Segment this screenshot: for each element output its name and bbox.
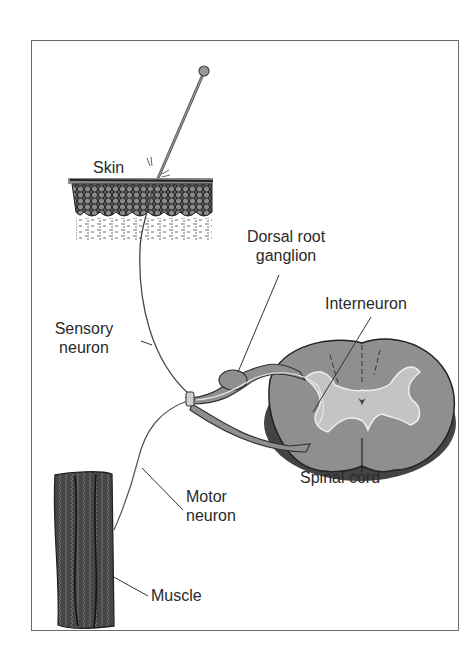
spinal-cord-illustration <box>264 339 456 481</box>
label-muscle: Muscle <box>151 586 202 605</box>
label-sensory-neuron-line1: Sensory <box>50 319 118 338</box>
label-motor-neuron-line2: neuron <box>186 506 236 525</box>
pin-icon <box>147 66 209 190</box>
label-sensory-neuron-line2: neuron <box>50 338 118 357</box>
label-skin: Skin <box>93 158 124 177</box>
motor-neuron-fiber <box>114 400 190 530</box>
label-dorsal-root-ganglion: Dorsal root ganglion <box>236 227 336 265</box>
label-dorsal-root-ganglion-line2: ganglion <box>236 246 336 265</box>
label-dorsal-root-ganglion-line1: Dorsal root <box>236 227 336 246</box>
label-motor-neuron: Motor neuron <box>186 487 236 525</box>
label-sensory-neuron: Sensory neuron <box>50 319 118 357</box>
label-spinal-cord: Spinal cord <box>300 468 380 487</box>
skin-illustration <box>68 178 213 240</box>
label-interneuron: Interneuron <box>325 294 407 313</box>
label-motor-neuron-line1: Motor <box>186 487 236 506</box>
muscle-illustration <box>54 472 114 628</box>
